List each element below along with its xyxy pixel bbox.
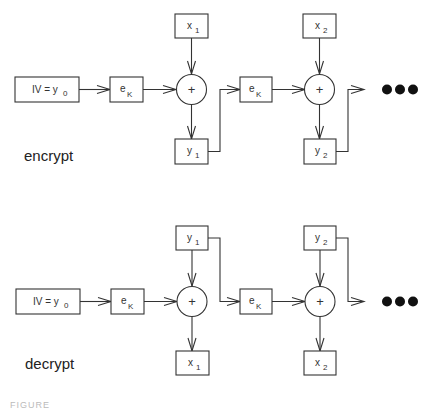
figure-caption-clipped: FIGURE <box>10 400 50 410</box>
encrypt-x1-box: x 1 <box>175 14 208 38</box>
svg-text:0: 0 <box>63 89 68 98</box>
decrypt-x2-box: x 2 <box>304 351 336 375</box>
svg-text:e: e <box>121 295 127 306</box>
encrypt-label: encrypt <box>24 147 74 164</box>
encrypt-ek-box-1: e K <box>110 77 143 102</box>
decrypt-ek-box-2: e K <box>240 289 272 314</box>
svg-text:+: + <box>316 82 324 97</box>
svg-text:+: + <box>188 294 196 309</box>
decrypt-xor-1: + <box>177 287 207 317</box>
encrypt-x2-box: x 2 <box>303 14 336 38</box>
svg-text:x: x <box>315 20 320 31</box>
svg-text:1: 1 <box>195 238 200 247</box>
decrypt-y2-box: y 2 <box>304 226 336 250</box>
svg-text:+: + <box>316 294 324 309</box>
svg-text:IV = y: IV = y <box>33 296 59 307</box>
svg-text:e: e <box>249 295 255 306</box>
svg-text:2: 2 <box>323 238 328 247</box>
decrypt-label: decrypt <box>25 355 75 372</box>
svg-text:y: y <box>187 145 192 156</box>
svg-text:x: x <box>188 357 193 368</box>
decrypt-iv-box: IV = y 0 <box>16 289 80 314</box>
svg-text:y: y <box>315 145 320 156</box>
svg-text:0: 0 <box>64 301 69 310</box>
svg-text:2: 2 <box>323 26 328 35</box>
encrypt-xor-1: + <box>177 75 207 105</box>
encrypt-section: IV = y 0 e K x 1 + y <box>15 14 418 164</box>
svg-text:1: 1 <box>196 363 201 372</box>
svg-text:x: x <box>315 357 320 368</box>
svg-text:K: K <box>128 302 134 311</box>
encrypt-iv-box: IV = y 0 <box>15 77 79 102</box>
decrypt-x1-box: x 1 <box>176 351 209 375</box>
svg-text:y: y <box>315 232 320 243</box>
svg-text:x: x <box>187 20 192 31</box>
encrypt-continuation-dots <box>382 85 418 95</box>
svg-text:IV = y: IV = y <box>32 84 58 95</box>
encrypt-ek-box-2: e K <box>240 77 272 102</box>
svg-text:+: + <box>188 82 196 97</box>
svg-text:e: e <box>120 83 126 94</box>
svg-text:1: 1 <box>195 151 200 160</box>
svg-text:1: 1 <box>195 26 200 35</box>
encrypt-y1-box: y 1 <box>175 139 208 164</box>
decrypt-xor-2: + <box>305 287 335 317</box>
svg-text:K: K <box>127 90 133 99</box>
svg-text:e: e <box>249 83 255 94</box>
svg-text:K: K <box>256 302 262 311</box>
encrypt-y2-box: y 2 <box>304 139 336 164</box>
decrypt-ek-box-1: e K <box>111 289 144 314</box>
decrypt-y1-box: y 1 <box>176 226 208 250</box>
decrypt-continuation-dots <box>382 297 418 307</box>
svg-text:y: y <box>187 232 192 243</box>
svg-text:K: K <box>256 90 262 99</box>
encrypt-xor-2: + <box>305 75 335 105</box>
decrypt-section: IV = y 0 e K y 1 + x 1 <box>16 226 418 375</box>
svg-text:2: 2 <box>323 151 328 160</box>
svg-text:2: 2 <box>323 363 328 372</box>
